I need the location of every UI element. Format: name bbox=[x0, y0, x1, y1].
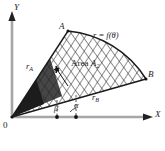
x-axis-arrow-icon bbox=[143, 113, 153, 120]
angle-alpha-label: α bbox=[74, 101, 78, 110]
angle-beta-label: β bbox=[54, 104, 58, 113]
radius-b-label: rB bbox=[92, 93, 99, 103]
point-a-label: A bbox=[59, 22, 65, 31]
radius-a-subscript: A bbox=[29, 66, 33, 72]
y-axis-label: Y bbox=[14, 3, 19, 12]
area-subscript: 2 bbox=[96, 62, 99, 69]
area-label: Area A2 bbox=[71, 59, 99, 69]
sector-region bbox=[0, 0, 165, 151]
polar-area-figure: Y X 0 A B r = f(θ) Area A2 rA rB α β bbox=[0, 0, 165, 151]
point-b-label: B bbox=[148, 70, 154, 79]
polar-curve-equation-label: r = f(θ) bbox=[93, 31, 119, 40]
hatch-layer-arc bbox=[0, 0, 165, 151]
alpha-tick-mark bbox=[74, 115, 78, 119]
beta-tick-mark bbox=[55, 115, 59, 119]
radius-b-subscript: B bbox=[95, 97, 99, 103]
origin-label: 0 bbox=[3, 121, 8, 130]
radius-a-label: rA bbox=[26, 62, 33, 72]
y-axis-arrow-icon bbox=[8, 11, 15, 21]
figure-canvas bbox=[0, 0, 165, 151]
area-word: Area bbox=[71, 58, 89, 68]
x-axis-label: X bbox=[155, 110, 161, 119]
origin-dot bbox=[10, 115, 13, 118]
point-a-marker bbox=[67, 30, 70, 33]
sector-hatch bbox=[0, 0, 165, 151]
